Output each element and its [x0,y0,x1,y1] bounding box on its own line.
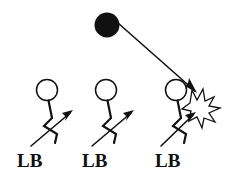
player-label: LB [82,150,108,171]
ball-flight-path [118,23,197,93]
player-label: LB [155,150,181,171]
ball-flight-line [118,23,195,91]
player-figure-3: LB [155,80,196,172]
player-motion-line [161,115,193,146]
player-figure-1: LB [17,80,73,172]
player-label: LB [17,150,43,171]
player-motion-arrow [92,110,134,146]
player-head-icon [166,80,187,101]
player-figure-2: LB [82,80,134,172]
player-body-zigzag [103,101,116,144]
diagram-svg: LB LB LB [0,0,235,177]
player-body-zigzag [44,101,57,144]
collision-starburst-icon [182,89,220,128]
football-icon [95,13,120,38]
play-diagram-canvas: LB LB LB [0,0,235,177]
player-motion-arrow [161,112,196,146]
player-head-icon [96,80,117,101]
player-head-icon [37,80,58,101]
